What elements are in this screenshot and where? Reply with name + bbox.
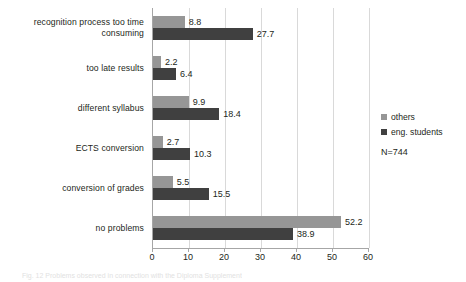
- legend-label-others: others: [391, 112, 415, 122]
- sample-size-note: N=744: [381, 147, 443, 157]
- figure-caption: Fig. 12 Problems observed in connection …: [22, 272, 322, 282]
- legend-item-others: others: [381, 112, 443, 122]
- bar-value-label: 8.8: [189, 17, 202, 27]
- bar-value-label: 2.2: [165, 57, 178, 67]
- x-axis-tick: [188, 248, 189, 252]
- x-axis-tick: [224, 248, 225, 252]
- gridline: [369, 8, 370, 248]
- bar-value-label: 9.9: [193, 97, 206, 107]
- x-axis-tick-label: 50: [327, 252, 337, 262]
- bar-eng: [153, 188, 209, 200]
- bar-value-label: 6.4: [180, 69, 193, 79]
- bar-others: [153, 96, 189, 108]
- bar-eng: [153, 108, 219, 120]
- category-label: conversion of grades: [0, 183, 144, 194]
- bar-others: [153, 216, 341, 228]
- x-axis-tick-label: 20: [219, 252, 229, 262]
- bar-value-label: 18.4: [223, 109, 241, 119]
- chart-legend: others eng. students N=744: [381, 112, 443, 157]
- bar-others: [153, 56, 161, 68]
- x-axis-tick-label: 40: [291, 252, 301, 262]
- x-axis-tick-label: 0: [149, 252, 154, 262]
- legend-item-eng-students: eng. students: [381, 127, 443, 137]
- bar-chart: recognition process too timeconsumingtoo…: [0, 0, 466, 282]
- bar-value-label: 15.5: [213, 189, 231, 199]
- bar-others: [153, 136, 163, 148]
- x-axis-tick: [368, 248, 369, 252]
- category-label: too late results: [0, 63, 144, 74]
- legend-swatch-others-icon: [381, 114, 387, 120]
- category-label: no problems: [0, 223, 144, 234]
- x-axis-tick: [152, 248, 153, 252]
- bar-eng: [153, 68, 176, 80]
- category-label: ECTS conversion: [0, 143, 144, 154]
- x-axis-tick: [332, 248, 333, 252]
- plot-area: 8.827.72.26.49.918.42.710.35.515.552.238…: [152, 8, 368, 248]
- legend-swatch-eng-students-icon: [381, 129, 387, 135]
- x-axis-tick-label: 60: [363, 252, 373, 262]
- gridline: [189, 8, 190, 248]
- gridline: [297, 8, 298, 248]
- legend-label-eng-students: eng. students: [391, 127, 443, 137]
- bar-eng: [153, 228, 293, 240]
- x-axis-tick: [296, 248, 297, 252]
- bar-value-label: 52.2: [345, 217, 363, 227]
- bar-others: [153, 16, 185, 28]
- bar-eng: [153, 28, 253, 40]
- gridline: [333, 8, 334, 248]
- bar-value-label: 2.7: [167, 137, 180, 147]
- bar-value-label: 10.3: [194, 149, 212, 159]
- gridline: [225, 8, 226, 248]
- bar-value-label: 27.7: [257, 29, 275, 39]
- bar-eng: [153, 148, 190, 160]
- x-axis-tick-label: 10: [183, 252, 193, 262]
- category-axis-labels: recognition process too timeconsumingtoo…: [0, 8, 148, 248]
- bar-others: [153, 176, 173, 188]
- x-axis-tick-label: 30: [255, 252, 265, 262]
- bar-value-label: 38.9: [297, 229, 315, 239]
- category-label: recognition process too timeconsuming: [0, 17, 144, 39]
- category-label: different syllabus: [0, 103, 144, 114]
- x-axis-tick: [260, 248, 261, 252]
- bar-value-label: 5.5: [177, 177, 190, 187]
- gridline: [261, 8, 262, 248]
